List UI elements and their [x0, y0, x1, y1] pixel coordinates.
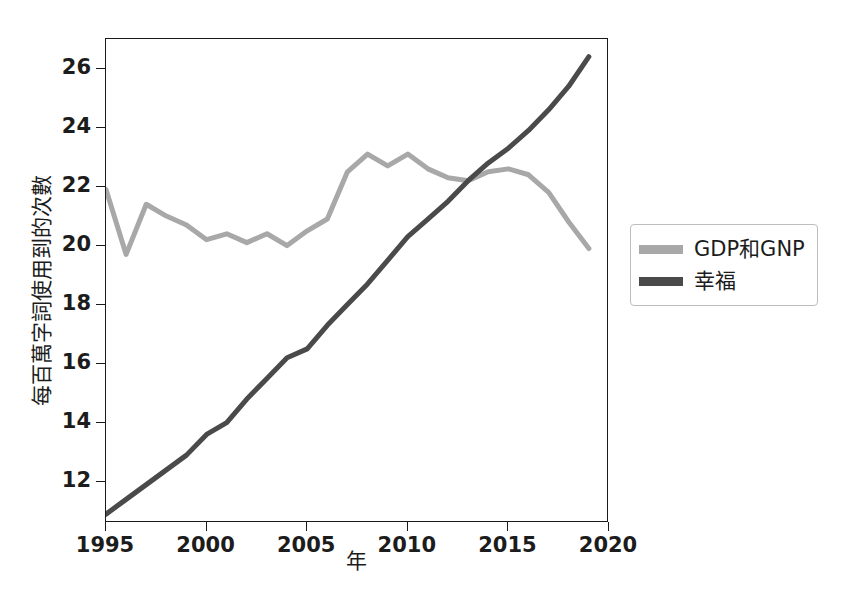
x-tick-mark — [206, 522, 207, 531]
legend-item[interactable]: GDP和GNP — [639, 233, 805, 265]
legend-swatch-happiness — [639, 277, 683, 286]
y-tick-label: 12 — [62, 470, 91, 491]
y-tick-label: 14 — [62, 411, 91, 432]
series-line — [106, 57, 589, 514]
y-axis-label: 每百萬字詞使用到的次數 — [32, 49, 53, 533]
legend-label-happiness: 幸福 — [694, 271, 736, 292]
y-tick-mark — [96, 363, 105, 364]
x-tick-mark — [306, 522, 307, 531]
y-tick-mark — [96, 304, 105, 305]
y-tick-mark — [96, 68, 105, 69]
x-axis-label: 年 — [0, 551, 713, 572]
x-tick-mark — [105, 522, 106, 531]
y-tick-label: 20 — [62, 234, 91, 255]
legend: GDP和GNP 幸福 — [630, 224, 818, 306]
y-tick-label: 16 — [62, 352, 91, 373]
y-tick-mark — [96, 186, 105, 187]
series-line — [106, 154, 589, 254]
legend-label-gdp-gnp: GDP和GNP — [694, 239, 805, 260]
y-tick-mark — [96, 245, 105, 246]
plot-lines — [106, 39, 609, 523]
legend-item[interactable]: 幸福 — [639, 265, 805, 297]
y-tick-label: 22 — [62, 175, 91, 196]
x-tick-mark — [608, 522, 609, 531]
y-tick-mark — [96, 127, 105, 128]
x-tick-mark — [407, 522, 408, 531]
y-tick-mark — [96, 481, 105, 482]
x-tick-mark — [507, 522, 508, 531]
y-tick-label: 26 — [62, 57, 91, 78]
chart-figure: 1214161820222426 19952000200520102015202… — [0, 0, 849, 605]
legend-swatch-gdp-gnp — [639, 245, 683, 254]
y-tick-mark — [96, 422, 105, 423]
y-tick-label: 18 — [62, 293, 91, 314]
y-tick-label: 24 — [62, 116, 91, 137]
plot-area — [105, 38, 608, 522]
